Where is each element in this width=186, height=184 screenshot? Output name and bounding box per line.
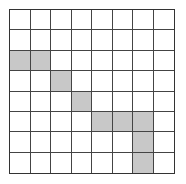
- grid-cell: [31, 112, 52, 132]
- grid-cell: [113, 132, 134, 152]
- grid-cell: [31, 92, 52, 112]
- grid-cell: [31, 71, 52, 91]
- grid-cell: [92, 51, 113, 71]
- grid-cell: [51, 112, 72, 132]
- grid-cell: [10, 153, 31, 173]
- grid-cell: [51, 92, 72, 112]
- grid-cell: [113, 30, 134, 50]
- grid-cell: [31, 132, 52, 152]
- grid-cell: [72, 30, 93, 50]
- grid-cell: [31, 30, 52, 50]
- grid-cell: [113, 10, 134, 30]
- shaded-cell: [31, 51, 52, 71]
- shaded-cell: [133, 153, 154, 173]
- grid-cell: [92, 92, 113, 112]
- shaded-cell: [133, 112, 154, 132]
- grid-cell: [72, 112, 93, 132]
- grid-cell: [154, 71, 175, 91]
- grid-cell: [72, 10, 93, 30]
- grid-cell: [92, 30, 113, 50]
- grid-cell: [133, 92, 154, 112]
- grid-cell: [133, 30, 154, 50]
- grid-cell: [92, 71, 113, 91]
- grid-cell: [133, 10, 154, 30]
- grid-cell: [10, 92, 31, 112]
- grid-cell: [92, 10, 113, 30]
- grid-cell: [72, 71, 93, 91]
- grid-cell: [113, 92, 134, 112]
- grid-cell: [10, 132, 31, 152]
- grid-cell: [51, 51, 72, 71]
- grid-cell: [72, 51, 93, 71]
- grid-cell: [72, 153, 93, 173]
- grid-cell: [154, 51, 175, 71]
- grid-cell: [51, 30, 72, 50]
- grid-cell: [133, 71, 154, 91]
- grid-cell: [10, 10, 31, 30]
- shaded-cell: [72, 92, 93, 112]
- shaded-cell: [133, 132, 154, 152]
- grid-cell: [92, 153, 113, 173]
- grid-cell: [51, 10, 72, 30]
- grid-cell: [154, 30, 175, 50]
- grid-diagram: [9, 9, 175, 174]
- grid-cell: [10, 71, 31, 91]
- shaded-cell: [92, 112, 113, 132]
- grid-cell: [92, 132, 113, 152]
- grid-cell: [154, 92, 175, 112]
- shaded-cell: [113, 112, 134, 132]
- grid-cell: [154, 10, 175, 30]
- shaded-cell: [10, 51, 31, 71]
- grid-cell: [10, 112, 31, 132]
- grid-cell: [113, 51, 134, 71]
- grid-cell: [154, 112, 175, 132]
- shaded-cell: [51, 71, 72, 91]
- grid-cell: [133, 51, 154, 71]
- grid-cell: [31, 10, 52, 30]
- grid-cell: [31, 153, 52, 173]
- grid-cell: [51, 132, 72, 152]
- grid-cell: [113, 153, 134, 173]
- grid-cell: [51, 153, 72, 173]
- grid-cell: [154, 132, 175, 152]
- grid-cell: [113, 71, 134, 91]
- grid-cell: [154, 153, 175, 173]
- grid-cell: [10, 30, 31, 50]
- grid-cell: [72, 132, 93, 152]
